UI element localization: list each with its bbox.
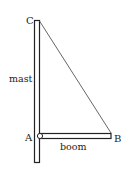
diagram-svg: C mast A B boom	[0, 0, 129, 173]
mast	[35, 21, 40, 163]
mast-boom-diagram: C mast A B boom	[0, 0, 129, 173]
label-mast: mast	[9, 73, 33, 84]
boom	[40, 134, 112, 139]
rope-cb	[40, 21, 112, 133]
label-boom: boom	[60, 141, 87, 152]
label-a: A	[24, 132, 33, 143]
label-b: B	[114, 133, 121, 144]
label-c: C	[26, 15, 34, 26]
pivot-a-icon	[37, 133, 42, 138]
